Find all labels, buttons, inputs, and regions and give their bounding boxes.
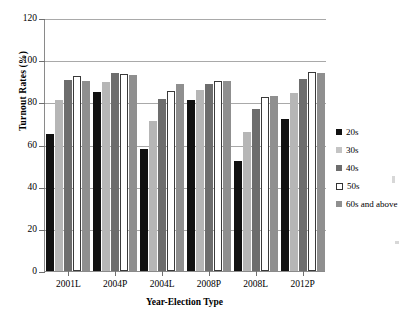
legend-swatch-icon: [336, 147, 342, 153]
bar: [82, 81, 90, 271]
bar: [64, 80, 72, 271]
x-axis-tick-label: 2008L: [243, 279, 268, 289]
y-axis-tick-label: 0: [32, 267, 37, 277]
bar-group: 2001L: [45, 18, 92, 271]
bar: [252, 109, 260, 271]
bar: [55, 100, 63, 271]
y-axis-tick-label: 80: [28, 99, 38, 109]
bar: [234, 161, 242, 271]
bar: [243, 132, 251, 271]
bar: [308, 72, 316, 271]
legend-item-label: 30s: [346, 146, 359, 155]
bar: [111, 73, 119, 271]
legend-item: 40s: [336, 159, 398, 177]
scan-artifact: [395, 241, 399, 244]
legend-swatch-icon: [336, 165, 342, 171]
legend-item: 60s and above: [336, 195, 398, 213]
legend-item-label: 60s and above: [346, 200, 398, 209]
legend-item-label: 40s: [346, 164, 359, 173]
x-axis-title: Year-Election Type: [44, 297, 325, 307]
legend-item: 50s: [336, 177, 398, 195]
bar: [187, 100, 195, 271]
scan-artifact: [392, 176, 395, 183]
bar-group: 2008P: [185, 18, 232, 271]
x-axis-tick: [256, 271, 257, 276]
y-axis-tick-label: 60: [28, 141, 38, 151]
bar-chart: Turnout Rates (%) 120100806040200 2001L2…: [0, 0, 420, 321]
bar: [205, 84, 213, 271]
bar: [196, 90, 204, 271]
legend-item: 20s: [336, 123, 398, 141]
bar: [93, 92, 101, 271]
bar: [73, 76, 81, 271]
bar: [158, 99, 166, 271]
bar: [214, 81, 222, 271]
bar: [281, 119, 289, 271]
legend-item-label: 50s: [347, 182, 360, 191]
x-axis-tick: [303, 271, 304, 276]
x-axis-tick: [162, 271, 163, 276]
bar-group: 2012P: [279, 18, 326, 271]
legend-swatch-icon: [336, 183, 343, 190]
bar: [149, 121, 157, 271]
bar: [176, 84, 184, 271]
bar: [290, 93, 298, 271]
plot-area: 120100806040200 2001L2004P2004L2008P2008…: [44, 19, 325, 272]
bar: [120, 74, 128, 271]
x-axis-tick-label: 2012P: [290, 279, 314, 289]
y-axis-tick-label: 100: [23, 56, 37, 66]
bar: [46, 134, 54, 271]
bar-group: 2004L: [139, 18, 186, 271]
x-axis-tick-label: 2004L: [150, 279, 175, 289]
x-axis-tick: [68, 271, 69, 276]
legend: 20s30s40s50s60s and above: [336, 123, 398, 213]
bar: [317, 73, 325, 271]
x-axis-tick-label: 2008P: [197, 279, 221, 289]
legend-item: 30s: [336, 141, 398, 159]
y-axis-tick-label: 40: [28, 183, 38, 193]
bar: [270, 96, 278, 271]
legend-item-label: 20s: [346, 128, 359, 137]
y-axis-tick: [39, 272, 45, 273]
bar: [129, 75, 137, 271]
bar: [299, 79, 307, 271]
legend-swatch-icon: [336, 201, 342, 207]
x-axis-tick: [115, 271, 116, 276]
bar: [140, 149, 148, 271]
x-axis-tick-label: 2001L: [56, 279, 81, 289]
legend-swatch-icon: [336, 129, 342, 135]
x-axis-tick: [209, 271, 210, 276]
y-axis-tick-label: 20: [28, 225, 38, 235]
bar: [261, 97, 269, 271]
bar-group: 2004P: [92, 18, 139, 271]
y-axis-tick-label: 120: [23, 14, 37, 24]
bar-group: 2008L: [232, 18, 279, 271]
bar: [223, 81, 231, 271]
bar: [102, 82, 110, 271]
y-axis-title: Turnout Rates (%): [18, 16, 28, 166]
x-axis-tick-label: 2004P: [103, 279, 127, 289]
bar-groups: 2001L2004P2004L2008P2008L2012P: [45, 18, 326, 271]
bar: [167, 91, 175, 271]
